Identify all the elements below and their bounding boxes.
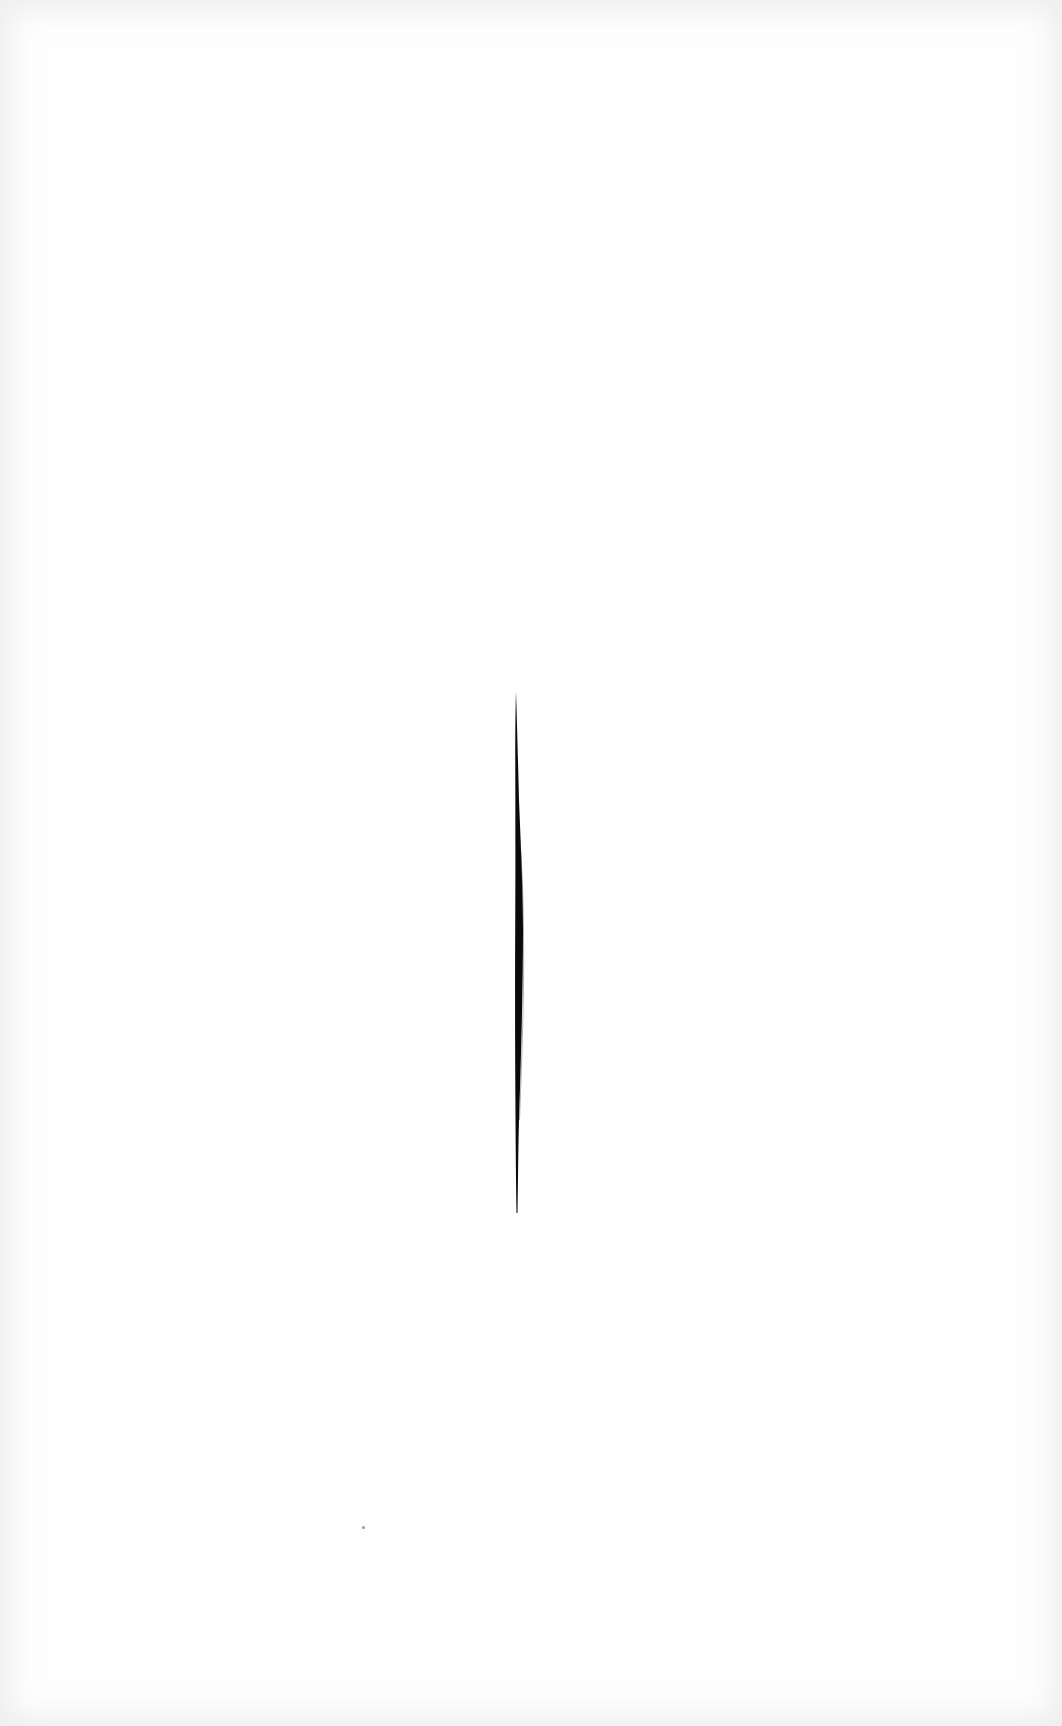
slash-body <box>515 692 523 1213</box>
canvas-speck <box>362 1526 365 1529</box>
canvas: White canvas with a single vertical slas… <box>0 0 1062 1726</box>
slash-cut <box>0 0 1062 1726</box>
